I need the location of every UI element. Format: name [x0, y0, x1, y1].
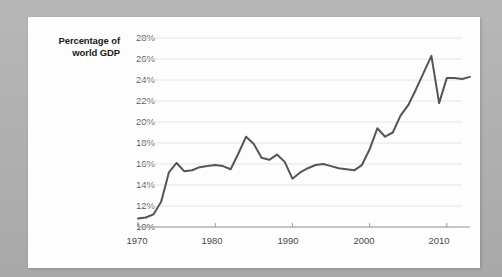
axis-lines: [138, 222, 470, 227]
gridlines: [138, 38, 462, 227]
axis-tickmarks: [138, 223, 447, 227]
line-chart-figure: Percentage of world GDP 28% 26% 24% 22% …: [28, 17, 480, 268]
plot-area: [28, 17, 480, 268]
chart-card: Percentage of world GDP 28% 26% 24% 22% …: [28, 17, 480, 268]
